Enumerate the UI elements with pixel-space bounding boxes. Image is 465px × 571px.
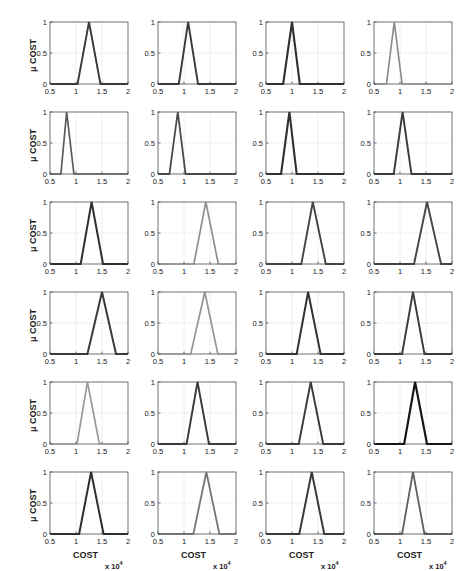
x-tick-label: 1 bbox=[290, 87, 294, 96]
x-tick-label: 2 bbox=[234, 177, 238, 186]
y-tick-label: 1 bbox=[367, 18, 371, 27]
subplot-panel-21[interactable]: 0.511.5200.51 bbox=[24, 462, 138, 552]
x-tick-label: 1 bbox=[74, 447, 78, 456]
y-tick-label: 0.5 bbox=[361, 229, 371, 238]
subplot-panel-16[interactable]: 0.511.5200.51 bbox=[348, 282, 462, 372]
y-tick-label: 0.5 bbox=[361, 319, 371, 328]
x-tick-label: 1 bbox=[398, 177, 402, 186]
y-tick-label: 0 bbox=[367, 350, 371, 359]
subplot-panel-20[interactable]: 0.511.5200.51 bbox=[348, 372, 462, 462]
x-tick-label: 2 bbox=[342, 177, 346, 186]
gridlines bbox=[374, 292, 452, 354]
x-axis-label: COST bbox=[181, 550, 206, 560]
subplot-panel-2[interactable]: 0.511.5200.51 bbox=[132, 12, 246, 102]
y-tick-label: 1 bbox=[367, 468, 371, 477]
x-axis-exponent: x 104 bbox=[213, 560, 231, 571]
subplot-panel-11[interactable]: 0.511.5200.51 bbox=[240, 192, 354, 282]
gridlines bbox=[158, 112, 236, 174]
x-tick-label: 1.5 bbox=[421, 357, 431, 366]
x-exponent-power: 4 bbox=[444, 560, 447, 566]
gridlines bbox=[158, 382, 236, 444]
subplot-panel-10[interactable]: 0.511.5200.51 bbox=[132, 192, 246, 282]
y-tick-label: 0 bbox=[259, 80, 263, 89]
x-tick-label: 1 bbox=[398, 447, 402, 456]
plot-area-1: 0.511.5200.51 bbox=[24, 12, 138, 102]
y-tick-label: 0 bbox=[259, 350, 263, 359]
x-tick-label: 2 bbox=[234, 537, 238, 546]
y-tick-label: 1 bbox=[43, 108, 47, 117]
y-tick-label: 0.5 bbox=[37, 229, 47, 238]
y-tick-label: 0 bbox=[43, 530, 47, 539]
subplot-panel-19[interactable]: 0.511.5200.51 bbox=[240, 372, 354, 462]
y-tick-label: 1 bbox=[367, 198, 371, 207]
plot-area-19: 0.511.5200.51 bbox=[240, 372, 354, 462]
subplot-panel-13[interactable]: 0.511.5200.51 bbox=[24, 282, 138, 372]
x-tick-label: 1 bbox=[290, 357, 294, 366]
x-tick-label: 1 bbox=[182, 537, 186, 546]
subplot-panel-3[interactable]: 0.511.5200.51 bbox=[240, 12, 354, 102]
subplot-panel-7[interactable]: 0.511.5200.51 bbox=[240, 102, 354, 192]
gridlines bbox=[374, 112, 452, 174]
y-tick-label: 1 bbox=[43, 198, 47, 207]
x-tick-label: 1 bbox=[182, 447, 186, 456]
y-tick-label: 0 bbox=[367, 440, 371, 449]
y-tick-label: 0 bbox=[43, 80, 47, 89]
y-tick-label: 1 bbox=[43, 468, 47, 477]
y-tick-label: 0.5 bbox=[145, 499, 155, 508]
x-tick-label: 2 bbox=[342, 447, 346, 456]
subplot-panel-5[interactable]: 0.511.5200.51 bbox=[24, 102, 138, 192]
x-tick-label: 1.5 bbox=[421, 447, 431, 456]
x-tick-label: 1.5 bbox=[205, 267, 215, 276]
x-tick-label: 1 bbox=[290, 447, 294, 456]
x-tick-label: 2 bbox=[342, 87, 346, 96]
y-tick-label: 0 bbox=[151, 350, 155, 359]
x-axis-exponent: x 104 bbox=[321, 560, 339, 571]
x-exponent-prefix: x 10 bbox=[429, 562, 444, 571]
x-tick-label: 2 bbox=[342, 267, 346, 276]
x-tick-label: 1.5 bbox=[313, 177, 323, 186]
subplot-panel-8[interactable]: 0.511.5200.51 bbox=[348, 102, 462, 192]
y-tick-label: 0 bbox=[43, 170, 47, 179]
x-tick-label: 1 bbox=[182, 87, 186, 96]
subplot-panel-22[interactable]: 0.511.5200.51 bbox=[132, 462, 246, 552]
plot-area-8: 0.511.5200.51 bbox=[348, 102, 462, 192]
plot-area-12: 0.511.5200.51 bbox=[348, 192, 462, 282]
subplot-panel-17[interactable]: 0.511.5200.51 bbox=[24, 372, 138, 462]
plot-area-23: 0.511.5200.51 bbox=[240, 462, 354, 552]
y-tick-label: 0 bbox=[367, 80, 371, 89]
x-tick-label: 1.5 bbox=[97, 537, 107, 546]
x-tick-label: 2 bbox=[450, 177, 454, 186]
x-axis-label: COST bbox=[397, 550, 422, 560]
plot-area-24: 0.511.5200.51 bbox=[348, 462, 462, 552]
subplot-panel-23[interactable]: 0.511.5200.51 bbox=[240, 462, 354, 552]
y-tick-label: 0 bbox=[43, 260, 47, 269]
y-tick-label: 0 bbox=[367, 260, 371, 269]
plot-area-16: 0.511.5200.51 bbox=[348, 282, 462, 372]
gridlines bbox=[158, 472, 236, 534]
subplot-panel-1[interactable]: 0.511.5200.51 bbox=[24, 12, 138, 102]
subplot-panel-15[interactable]: 0.511.5200.51 bbox=[240, 282, 354, 372]
plot-area-13: 0.511.5200.51 bbox=[24, 282, 138, 372]
membership-curve-19 bbox=[266, 382, 344, 444]
x-tick-label: 2 bbox=[234, 357, 238, 366]
gridlines bbox=[374, 202, 452, 264]
gridlines bbox=[266, 112, 344, 174]
y-tick-label: 0 bbox=[259, 170, 263, 179]
subplot-panel-14[interactable]: 0.511.5200.51 bbox=[132, 282, 246, 372]
subplot-panel-9[interactable]: 0.511.5200.51 bbox=[24, 192, 138, 282]
x-axis-exponent: x 104 bbox=[429, 560, 447, 571]
plot-area-22: 0.511.5200.51 bbox=[132, 462, 246, 552]
subplot-panel-18[interactable]: 0.511.5200.51 bbox=[132, 372, 246, 462]
subplot-panel-12[interactable]: 0.511.5200.51 bbox=[348, 192, 462, 282]
y-tick-label: 1 bbox=[43, 378, 47, 387]
subplot-panel-24[interactable]: 0.511.5200.51 bbox=[348, 462, 462, 552]
y-tick-label: 0.5 bbox=[253, 139, 263, 148]
x-exponent-prefix: x 10 bbox=[213, 562, 228, 571]
y-tick-label: 0.5 bbox=[253, 409, 263, 418]
x-tick-label: 2 bbox=[450, 87, 454, 96]
subplot-panel-4[interactable]: 0.511.5200.51 bbox=[348, 12, 462, 102]
subplot-panel-6[interactable]: 0.511.5200.51 bbox=[132, 102, 246, 192]
x-tick-label: 1.5 bbox=[205, 537, 215, 546]
x-tick-label: 1.5 bbox=[205, 87, 215, 96]
